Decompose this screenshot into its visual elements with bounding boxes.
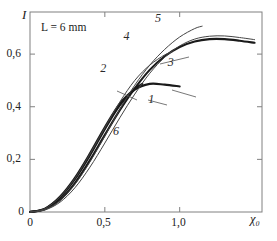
curve-3 <box>30 39 255 212</box>
curve-5 <box>30 26 202 212</box>
curve-label-2: 2 <box>100 61 106 76</box>
y-tick-label: 0,4 <box>7 100 21 112</box>
y-axis-label: I <box>22 7 26 23</box>
plot-annotation: L = 6 mm <box>41 21 86 33</box>
y-tick-label: 0,6 <box>7 47 21 59</box>
axis-ticks <box>30 12 262 212</box>
curve-label-4: 4 <box>124 29 130 44</box>
plot-frame <box>30 12 262 212</box>
y-tick-label: 0,2 <box>7 152 21 164</box>
chart-figure: I χ₀ L = 6 mm 00,51,0 00,20,40,6 123456 <box>0 0 277 241</box>
x-axis-label-text: χ₀ <box>250 212 260 226</box>
curve-label-5: 5 <box>155 11 161 26</box>
x-tick-label: 1,0 <box>171 216 185 228</box>
y-tick-label: 0 <box>18 205 24 217</box>
curve-label-3: 3 <box>168 55 174 70</box>
curve-label-6: 6 <box>113 124 119 139</box>
curve-paths <box>30 26 255 212</box>
x-tick-label: 0,5 <box>96 216 110 228</box>
curve-label-1: 1 <box>148 92 154 107</box>
plot-canvas <box>0 0 277 241</box>
x-axis-label: χ₀ <box>250 212 260 227</box>
curve-6 <box>30 36 255 212</box>
x-tick-label: 0 <box>27 216 33 228</box>
